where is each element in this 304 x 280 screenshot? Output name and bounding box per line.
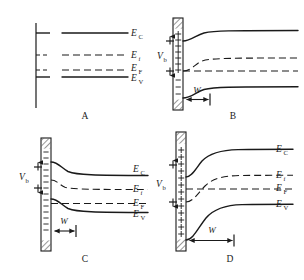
panel-b-vb-subscript: b <box>164 56 168 63</box>
panel-a-label-ei: E i <box>130 50 141 62</box>
panel-c-vb-subscript: b <box>26 177 30 184</box>
panel-c-letter: C <box>82 254 88 264</box>
panel-a: E C E i E F E V A <box>36 23 144 121</box>
panel-d-vb-subscript: b <box>163 184 167 191</box>
label-ef-subscript: F <box>139 68 143 75</box>
panel-a-label-ev: E V <box>130 73 144 85</box>
label-ev-subscript: V <box>141 214 146 221</box>
label-ei-text: E <box>275 170 282 180</box>
panel-a-letter: A <box>82 111 89 121</box>
panel-c-w-text: W <box>60 216 69 226</box>
label-ec-text: E <box>275 144 282 154</box>
label-ef-subscript: F <box>284 188 288 195</box>
label-ev-text: E <box>132 209 139 219</box>
panel-b: V b W B <box>157 18 298 121</box>
label-ec-subscript: C <box>139 33 144 40</box>
panel-a-label-ec: E C <box>130 28 144 40</box>
label-ec-text: E <box>130 28 137 38</box>
panel-b-wall-hatch-top <box>174 19 183 29</box>
panel-d-wall-hatch-bottom <box>177 239 186 250</box>
panel-c-wall-hatch-top <box>42 139 51 149</box>
label-ec-text: E <box>132 164 139 174</box>
panel-c: V b E C E i E F E V W C <box>19 138 148 264</box>
label-ei-text: E <box>130 50 137 60</box>
panel-d-w-measure: W <box>190 225 235 247</box>
label-ei-text: E <box>132 184 139 194</box>
panel-c-label-ei: E i <box>132 184 143 196</box>
panel-d-vb-measure: V b <box>156 161 177 207</box>
label-ev-text: E <box>130 73 137 83</box>
panel-b-letter: B <box>230 111 236 121</box>
panel-c-label-ef: E F <box>132 198 145 210</box>
panel-b-w-measure: W <box>187 85 211 106</box>
panel-c-wall <box>41 138 51 251</box>
panel-c-label-ec: E C <box>132 164 146 176</box>
label-ef-text: E <box>275 183 282 193</box>
panel-d-label-ev: E V <box>275 199 289 211</box>
panel-c-label-ev: E V <box>132 209 146 221</box>
panel-c-w-measure: W <box>55 216 77 237</box>
label-ei-subscript: i <box>141 189 143 196</box>
panel-d: V b E C E i E F E V W D <box>156 132 293 264</box>
panel-b-band-ei <box>183 58 298 71</box>
label-ev-subscript: V <box>139 78 144 85</box>
label-ef-text: E <box>132 198 139 208</box>
label-ef-text: E <box>130 63 137 73</box>
panel-d-band-ev <box>186 204 293 240</box>
label-ev-subscript: V <box>284 204 289 211</box>
figure-container: E C E i E F E V A <box>0 0 304 280</box>
label-ei-subscript: i <box>284 175 286 182</box>
panel-d-wall-hatch-top <box>177 133 186 144</box>
label-ef-subscript: F <box>141 203 145 210</box>
label-ec-subscript: C <box>141 169 146 176</box>
label-ev-text: E <box>275 199 282 209</box>
panel-c-wall-hatch-bottom <box>42 240 51 250</box>
label-ei-subscript: i <box>139 55 141 62</box>
panel-d-letter: D <box>227 254 234 264</box>
panel-b-band-ec <box>183 31 298 42</box>
panel-c-vb-measure: V b <box>19 163 42 193</box>
panel-b-vb-measure: V b <box>157 37 174 76</box>
energy-band-figure: E C E i E F E V A <box>0 0 304 280</box>
panel-d-label-ec: E C <box>275 144 289 156</box>
panel-d-label-ei: E i <box>275 170 286 182</box>
panel-d-label-ef: E F <box>275 183 288 195</box>
label-ec-subscript: C <box>284 149 289 156</box>
panel-b-wall-hatch-bottom <box>174 100 183 110</box>
panel-d-w-text: W <box>208 225 217 235</box>
